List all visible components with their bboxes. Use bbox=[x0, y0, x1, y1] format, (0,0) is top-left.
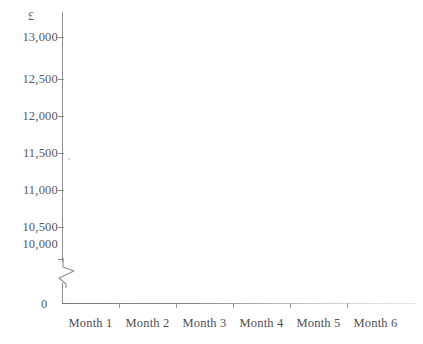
y-tick-label: 13,000 bbox=[0, 30, 58, 45]
x-category-label-month-4: Month 4 bbox=[233, 316, 290, 331]
chart-figure: £ 13,000 12,500 12,000 11,500 11,000 10,… bbox=[0, 0, 423, 344]
y-tick-label: 12,000 bbox=[0, 109, 58, 124]
x-category-label-month-2: Month 2 bbox=[119, 316, 176, 331]
x-tick-mark bbox=[233, 303, 234, 308]
y-tick-label: 10,000 bbox=[0, 237, 58, 252]
x-tick-mark bbox=[119, 303, 120, 308]
scan-artifact bbox=[68, 158, 71, 160]
y-tick-label: 12,500 bbox=[0, 72, 58, 87]
x-category-label-month-3: Month 3 bbox=[176, 316, 233, 331]
y-tick-label: 11,500 bbox=[0, 146, 58, 161]
x-tick-mark bbox=[176, 303, 177, 308]
x-category-label-month-6: Month 6 bbox=[347, 316, 404, 331]
x-category-label-month-1: Month 1 bbox=[62, 316, 119, 331]
y-axis-unit-label: £ bbox=[28, 9, 34, 24]
y-tick-label: 10,500 bbox=[0, 220, 58, 235]
y-tick-label: 11,000 bbox=[0, 183, 58, 198]
x-axis-line bbox=[62, 303, 415, 304]
y-axis-origin-label: 0 bbox=[41, 297, 47, 312]
x-tick-mark bbox=[290, 303, 291, 308]
plot-area bbox=[63, 12, 415, 303]
x-category-label-month-5: Month 5 bbox=[290, 316, 347, 331]
x-tick-mark bbox=[347, 303, 348, 308]
